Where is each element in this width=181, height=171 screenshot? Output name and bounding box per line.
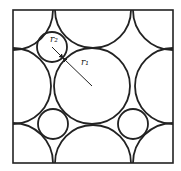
- circle-packing-diagram: r₂ r₁: [0, 0, 181, 171]
- small-radius-arrow: [52, 47, 63, 58]
- large-radius-label: r₁: [81, 57, 89, 67]
- small-radius-label: r₂: [50, 34, 58, 44]
- large-circle: [0, 0, 53, 50]
- small-circle: [38, 109, 68, 139]
- small-circle: [118, 109, 148, 139]
- large-circles-group: [0, 0, 181, 171]
- square-frame: [13, 10, 173, 163]
